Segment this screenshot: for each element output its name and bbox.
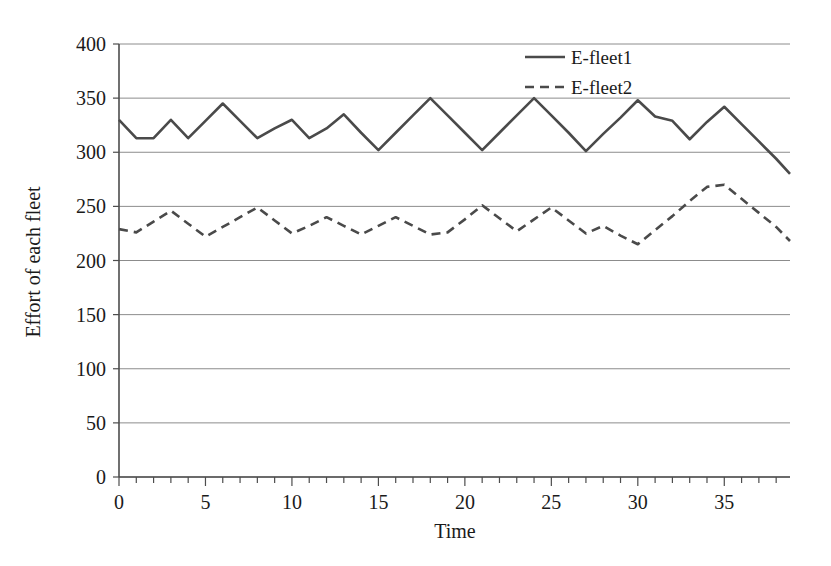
- x-tick-label-0: 0: [114, 491, 124, 513]
- y-tick-label-250: 250: [76, 195, 106, 217]
- x-tick-label-25: 25: [541, 491, 561, 513]
- y-tick-label-150: 150: [76, 304, 106, 326]
- x-tick-label-20: 20: [455, 491, 475, 513]
- chart-figure: 050100150200250300350400 05101520253035 …: [0, 0, 831, 566]
- x-tick-label-10: 10: [282, 491, 302, 513]
- y-tick-label-350: 350: [76, 87, 106, 109]
- x-tick-marks: [119, 477, 776, 486]
- x-tick-label-5: 5: [200, 491, 210, 513]
- series-line-e-fleet2: [119, 185, 790, 245]
- series-group: [119, 98, 790, 244]
- chart-legend: E-fleet1E-fleet2: [525, 47, 632, 98]
- x-tick-label-35: 35: [714, 491, 734, 513]
- y-tick-label-50: 50: [86, 412, 106, 434]
- x-tick-label-15: 15: [368, 491, 388, 513]
- x-tick-labels: 05101520253035: [114, 491, 734, 513]
- y-tick-labels: 050100150200250300350400: [76, 33, 106, 488]
- y-tick-label-400: 400: [76, 33, 106, 55]
- line-chart: 050100150200250300350400 05101520253035 …: [0, 0, 831, 566]
- y-axis-title: Effort of each fleet: [22, 186, 44, 338]
- y-tick-label-300: 300: [76, 141, 106, 163]
- legend-label-e-fleet2: E-fleet2: [571, 77, 632, 98]
- y-tick-label-0: 0: [96, 466, 106, 488]
- y-tick-marks: [113, 44, 119, 477]
- series-line-e-fleet1: [119, 98, 790, 174]
- y-tick-label-200: 200: [76, 250, 106, 272]
- y-tick-label-100: 100: [76, 358, 106, 380]
- x-tick-label-30: 30: [628, 491, 648, 513]
- gridlines-group: [119, 44, 790, 477]
- x-axis-title: Time: [434, 520, 476, 542]
- legend-label-e-fleet1: E-fleet1: [571, 47, 632, 68]
